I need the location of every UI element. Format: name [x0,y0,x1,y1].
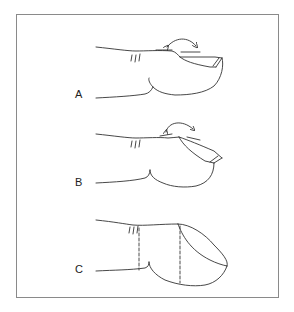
finger-b [96,123,222,187]
panel-label-c: C [75,263,83,275]
panel-label-b: B [75,176,82,188]
panel-label-a: A [75,88,82,100]
finger-diagram [0,0,294,312]
finger-a [96,39,223,98]
finger-c [96,220,227,286]
